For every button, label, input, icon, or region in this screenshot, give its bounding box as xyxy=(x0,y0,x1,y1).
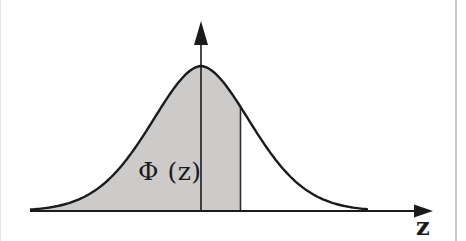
shaded-area xyxy=(31,66,241,211)
page: Φ (z) z xyxy=(0,0,466,241)
area-label: Φ (z) xyxy=(138,157,202,186)
normal-curve-figure xyxy=(0,0,466,241)
y-axis-arrowhead xyxy=(194,21,208,45)
x-axis-label: z xyxy=(416,212,430,241)
